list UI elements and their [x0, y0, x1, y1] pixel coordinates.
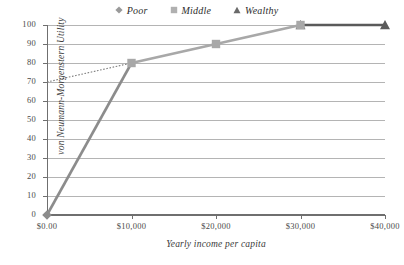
x-tick-mark	[216, 215, 217, 219]
diamond-marker-icon	[115, 6, 123, 14]
y-tick-label: 70	[0, 76, 36, 86]
square-marker-icon	[170, 6, 178, 14]
triangle-marker-icon	[233, 6, 241, 14]
x-tick-label: $20,000	[181, 221, 251, 231]
y-tick-label: 90	[0, 38, 36, 48]
chart-plot-area: 0102030405060708090100$0.00$10,000$20,00…	[47, 25, 385, 215]
data-point-middle	[127, 59, 135, 67]
legend-label-poor: Poor	[127, 5, 148, 16]
data-point-middle	[296, 21, 304, 29]
y-axis-title: von Neumann-Morgenstern Utility	[56, 0, 66, 176]
legend-label-middle: Middle	[182, 5, 212, 16]
legend-item-wealthy: Wealthy	[233, 5, 278, 16]
y-tick-label: 0	[0, 209, 36, 219]
x-tick-mark	[132, 215, 133, 219]
y-tick-label: 10	[0, 190, 36, 200]
data-point-middle	[212, 40, 220, 48]
y-tick-label: 80	[0, 57, 36, 67]
x-tick-label: $40,000	[350, 221, 404, 231]
y-tick-label: 60	[0, 95, 36, 105]
x-axis-title: Yearly income per capita	[47, 239, 385, 249]
x-tick-mark	[301, 215, 302, 219]
y-tick-label: 50	[0, 114, 36, 124]
chart-series-layer	[47, 25, 385, 215]
y-tick-label: 20	[0, 171, 36, 181]
data-point-poor	[42, 210, 52, 220]
x-tick-label: $30,000	[266, 221, 336, 231]
legend-item-poor: Poor	[115, 5, 148, 16]
x-tick-label: $10,000	[97, 221, 167, 231]
legend-item-middle: Middle	[170, 5, 212, 16]
y-tick-label: 30	[0, 152, 36, 162]
legend-label-wealthy: Wealthy	[245, 5, 278, 16]
y-tick-label: 100	[0, 19, 36, 29]
x-tick-label: $0.00	[12, 221, 82, 231]
x-tick-mark	[385, 215, 386, 219]
y-tick-label: 40	[0, 133, 36, 143]
